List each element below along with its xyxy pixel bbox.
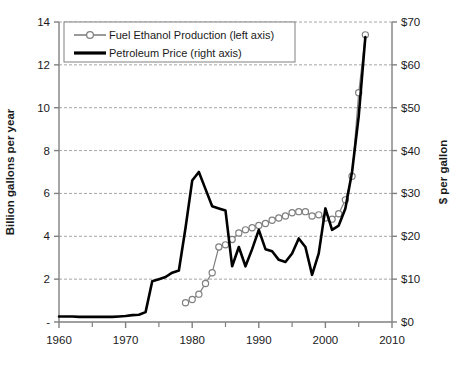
y-axis-left-tick-label: - bbox=[46, 316, 50, 328]
legend-label-0: Fuel Ethanol Production (left axis) bbox=[109, 29, 274, 41]
series-marker-0 bbox=[236, 230, 242, 236]
y-axis-right-tick-label: $30 bbox=[401, 187, 420, 199]
series-marker-0 bbox=[302, 209, 308, 215]
x-axis-tick-label: 1970 bbox=[113, 334, 139, 346]
y-axis-right-tick-label: $40 bbox=[401, 145, 420, 157]
y-axis-left-title: Billion gallons per year bbox=[4, 108, 16, 235]
y-axis-right-tick-label: $70 bbox=[401, 16, 420, 28]
series-marker-0 bbox=[262, 220, 268, 226]
legend-label-1: Petroleum Price (right axis) bbox=[109, 47, 242, 59]
y-axis-left-tick-label: 4 bbox=[44, 230, 51, 242]
y-axis-right-tick-label: $20 bbox=[401, 230, 420, 242]
series-marker-0 bbox=[202, 280, 208, 286]
y-axis-right-tick-label: $60 bbox=[401, 59, 420, 71]
series-marker-0 bbox=[276, 215, 282, 221]
series-marker-0 bbox=[189, 296, 195, 302]
x-axis-tick-label: 2010 bbox=[379, 334, 405, 346]
y-axis-left-tick-label: 12 bbox=[37, 59, 50, 71]
y-axis-left-tick-label: 10 bbox=[37, 102, 50, 114]
y-axis-right-tick-label: $0 bbox=[401, 316, 414, 328]
y-axis-left-tick-label: 2 bbox=[44, 273, 50, 285]
x-axis-tick-label: 2000 bbox=[313, 334, 339, 346]
series-line-0 bbox=[186, 35, 366, 303]
series-marker-0 bbox=[209, 270, 215, 276]
y-axis-right-tick-label: $10 bbox=[401, 273, 420, 285]
series-marker-0 bbox=[309, 213, 315, 219]
ethanol-petroleum-chart: -2468101214$0$10$20$30$40$50$60$70196019… bbox=[0, 0, 461, 370]
series-marker-0 bbox=[336, 211, 342, 217]
chart-canvas: -2468101214$0$10$20$30$40$50$60$70196019… bbox=[0, 0, 461, 370]
series-marker-0 bbox=[222, 242, 228, 248]
series-marker-0 bbox=[242, 227, 248, 233]
series-marker-0 bbox=[282, 213, 288, 219]
x-axis-tick-label: 1980 bbox=[179, 334, 205, 346]
series-marker-0 bbox=[196, 291, 202, 297]
legend-swatch-marker-0 bbox=[87, 32, 94, 39]
series-marker-0 bbox=[296, 209, 302, 215]
series-marker-0 bbox=[269, 217, 275, 223]
series-marker-0 bbox=[249, 225, 255, 231]
y-axis-left-tick-label: 14 bbox=[37, 16, 50, 28]
y-axis-left-tick-label: 8 bbox=[44, 145, 50, 157]
x-axis-tick-label: 1990 bbox=[246, 334, 272, 346]
series-marker-0 bbox=[182, 300, 188, 306]
y-axis-right-title: $ per gallon bbox=[437, 140, 449, 205]
series-marker-0 bbox=[256, 222, 262, 228]
series-marker-0 bbox=[216, 244, 222, 250]
y-axis-left-tick-label: 6 bbox=[44, 187, 50, 199]
series-marker-0 bbox=[316, 212, 322, 218]
x-axis-tick-label: 1960 bbox=[46, 334, 72, 346]
series-marker-0 bbox=[289, 210, 295, 216]
y-axis-right-tick-label: $50 bbox=[401, 102, 420, 114]
